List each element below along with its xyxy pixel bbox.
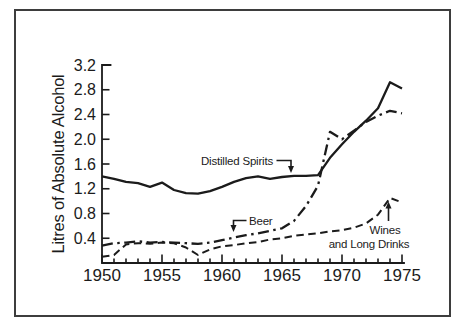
y-tick-label: 2.4: [74, 106, 96, 123]
y-tick-label: 1.6: [74, 156, 96, 173]
annotation-wines-label-line1: Wines: [370, 224, 401, 236]
alcohol-consumption-chart: 0.40.81.21.62.02.42.83.2 195019551960196…: [0, 0, 464, 334]
x-tick-label: 1955: [143, 266, 181, 285]
x-tick-label: 1965: [263, 266, 301, 285]
y-axis-title: Litres of Absolute Alcohol: [49, 74, 67, 253]
y-tick-label: 0.4: [74, 230, 96, 247]
x-tick-label: 1960: [203, 266, 241, 285]
y-tick-label: 1.2: [74, 180, 96, 197]
y-tick-label: 3.2: [74, 57, 96, 74]
annotation-beer-label: Beer: [249, 215, 273, 227]
y-tick-label: 0.8: [74, 205, 96, 222]
x-tick-label: 1950: [83, 266, 121, 285]
x-tick-label: 1970: [323, 266, 361, 285]
annotation-distilled-spirits-label: Distilled Spirits: [201, 155, 273, 167]
x-tick-label: 1975: [383, 266, 421, 285]
figure: 0.40.81.21.62.02.42.83.2 195019551960196…: [0, 0, 464, 334]
y-tick-label: 2.0: [74, 131, 96, 148]
annotation-wines-label-line2: and Long Drinks: [329, 238, 410, 250]
y-tick-label: 2.8: [74, 81, 96, 98]
